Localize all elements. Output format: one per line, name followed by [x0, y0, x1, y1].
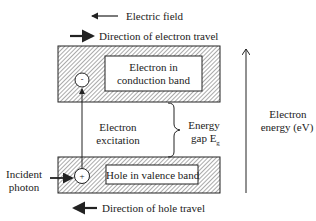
- energy-gap-label-1: Energy: [184, 119, 224, 131]
- hole-symbol: +: [75, 170, 89, 182]
- excitation-label-1: Electron: [86, 121, 150, 133]
- valence-band-label: Hole in valence band: [106, 169, 198, 181]
- electron-travel-label: Direction of electron travel: [99, 30, 218, 42]
- incident-photon-label-2: photon: [2, 181, 46, 193]
- electron-symbol: -: [75, 74, 89, 86]
- conduction-band-label-1: Electron in: [105, 61, 202, 73]
- energy-gap-subscript: g: [216, 139, 220, 147]
- energy-axis-label-2: energy (eV): [258, 121, 316, 133]
- conduction-band-label-2: conduction band: [105, 74, 202, 86]
- energy-axis-label-1: Electron: [260, 108, 316, 120]
- energy-gap-brace-icon: [168, 103, 180, 157]
- hole-travel-label: Direction of hole travel: [102, 202, 205, 214]
- energy-gap-label-2: gap Eg: [191, 132, 220, 149]
- energy-gap-text: gap E: [191, 132, 216, 144]
- electric-field-label: Electric field: [126, 10, 183, 22]
- incident-photon-label-1: Incident: [2, 168, 46, 180]
- excitation-label-2: excitation: [86, 134, 150, 146]
